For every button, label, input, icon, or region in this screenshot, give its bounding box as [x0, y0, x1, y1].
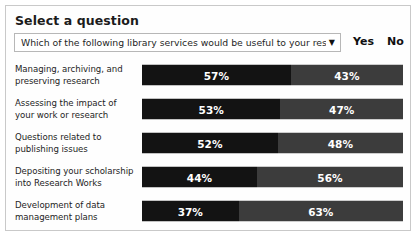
chart-row-label: Managing, archiving, andpreserving resea… — [15, 64, 139, 87]
chart-row: Assessing the impact ofyour work or rese… — [6, 92, 412, 126]
bar-segment-yes: 44% — [142, 167, 257, 188]
chart-row: Managing, archiving, andpreserving resea… — [6, 58, 412, 92]
bar-segment-no: 63% — [239, 201, 403, 222]
question-select[interactable]: Which of the following library services … — [14, 33, 341, 52]
chart-row-label: Depositing your scholarshipinto Research… — [15, 166, 139, 189]
chart-row-label-line: management plans — [15, 211, 139, 223]
legend-label-no: No — [387, 35, 404, 48]
chart-row-label-line: Managing, archiving, and — [15, 64, 139, 76]
chart-row-label-line: into Research Works — [15, 177, 139, 189]
page-title: Select a question — [15, 13, 139, 28]
question-control-row: Which of the following library services … — [14, 33, 404, 53]
chart-row-label-line: Development of data — [15, 200, 139, 212]
chevron-down-icon: ▼ — [329, 39, 335, 47]
question-chart-card: Select a question Which of the following… — [5, 5, 411, 231]
bar-segment-no: 43% — [291, 65, 403, 86]
bar-segment-yes: 57% — [142, 65, 291, 86]
question-select-value: Which of the following library services … — [21, 37, 326, 48]
stacked-bar: 37%63% — [142, 201, 403, 222]
chart-row: Depositing your scholarshipinto Research… — [6, 160, 412, 194]
bar-segment-yes: 37% — [142, 201, 239, 222]
stacked-bar: 44%56% — [142, 167, 403, 188]
chart-row-label: Development of datamanagement plans — [15, 200, 139, 223]
legend-label-yes: Yes — [353, 35, 374, 48]
chart-row-label-line: Depositing your scholarship — [15, 166, 139, 178]
chart-row-label-line: Assessing the impact of — [15, 98, 139, 110]
chart-row-label-line: Questions related to — [15, 132, 139, 144]
stacked-bar: 52%48% — [142, 133, 403, 154]
chart-row-label-line: publishing issues — [15, 143, 139, 155]
bar-segment-yes: 53% — [142, 99, 280, 120]
chart-row-label: Questions related topublishing issues — [15, 132, 139, 155]
bar-segment-no: 47% — [280, 99, 403, 120]
chart-row: Questions related topublishing issues52%… — [6, 126, 412, 160]
bar-segment-no: 56% — [257, 167, 403, 188]
chart-row-label: Assessing the impact ofyour work or rese… — [15, 98, 139, 121]
chart-row-label-line: your work or research — [15, 109, 139, 121]
stacked-bar: 53%47% — [142, 99, 403, 120]
bar-segment-yes: 52% — [142, 133, 278, 154]
chart-rows: Managing, archiving, andpreserving resea… — [6, 58, 412, 228]
chart-row: Development of datamanagement plans37%63… — [6, 194, 412, 228]
bar-segment-no: 48% — [278, 133, 403, 154]
stacked-bar: 57%43% — [142, 65, 403, 86]
chart-row-label-line: preserving research — [15, 75, 139, 87]
